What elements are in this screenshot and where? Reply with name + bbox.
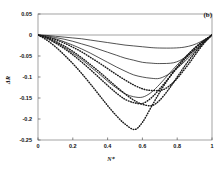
plot-frame <box>38 14 212 140</box>
x-tick-label: 0.8 <box>165 143 189 149</box>
panel-label: (b) <box>203 11 212 19</box>
x-tick-label: 0.6 <box>130 143 154 149</box>
y-tick-label: -0.2 <box>2 116 32 122</box>
x-tick-label: 0.2 <box>61 143 85 149</box>
y-tick-label: 0 <box>2 32 32 38</box>
x-tick-label: 1 <box>200 143 222 149</box>
x-axis-label: N* <box>0 156 222 162</box>
y-tick-label: -0.25 <box>2 137 32 143</box>
x-tick-label: 0 <box>26 143 50 149</box>
x-tick-label: 0.4 <box>96 143 120 149</box>
y-tick-label: -0.15 <box>2 95 32 101</box>
y-tick-label: -0.05 <box>2 53 32 59</box>
y-tick-label: 0.05 <box>2 11 32 17</box>
figure-panel-b: ΔR N* (b) 0.050-0.05-0.1-0.15-0.2-0.25 0… <box>0 0 222 170</box>
y-tick-label: -0.1 <box>2 74 32 80</box>
